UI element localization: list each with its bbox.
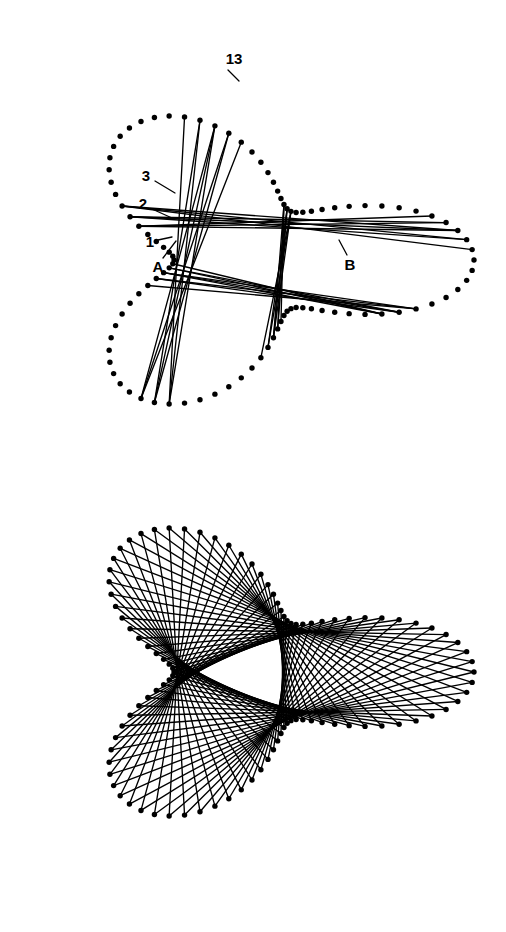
curve-point-dot (265, 582, 270, 587)
curve-point-dot (167, 677, 172, 682)
curve-point-dot (136, 703, 141, 708)
curve-point-dot (429, 625, 434, 630)
curve-point-dot (396, 617, 401, 622)
curve-point-dot (197, 809, 202, 814)
curve-point-dot (113, 192, 118, 197)
curve-point-dot (300, 622, 305, 627)
figure-canvas: 13321AB (0, 0, 506, 932)
curve-point-dot (182, 812, 187, 817)
annotation-label-3: 3 (142, 167, 150, 184)
curve-point-dot (106, 348, 111, 353)
curve-point-dot (346, 616, 351, 621)
curve-point-dot (138, 531, 143, 536)
curve-point-dot (127, 125, 132, 130)
curve-point-dot (396, 310, 401, 315)
curve-point-dot (258, 160, 263, 165)
curve-point-dot (197, 530, 202, 535)
curve-point-dot (319, 207, 324, 212)
curve-point-dot (111, 144, 116, 149)
curve-point-dot (464, 237, 469, 242)
curve-point-dot (332, 205, 337, 210)
curve-point-dot (346, 204, 351, 209)
curve-point-dot (113, 604, 118, 609)
curve-point-dot (469, 268, 474, 273)
curve-point-dot (413, 208, 418, 213)
curve-point-dot (239, 551, 244, 556)
curve-point-dot (107, 772, 112, 777)
curve-point-dot (413, 306, 418, 311)
epitrochoid-string-art-figure: 13321AB (0, 0, 506, 932)
curve-point-dot (161, 245, 166, 250)
curve-point-dot (182, 526, 187, 531)
curve-point-dot (275, 188, 280, 193)
curve-point-dot (464, 690, 469, 695)
curve-point-dot (212, 391, 217, 396)
curve-point-dot (154, 688, 159, 693)
curve-point-dot (107, 155, 112, 160)
curve-point-dot (258, 572, 263, 577)
curve-point-dot (226, 131, 231, 136)
curve-point-dot (170, 666, 175, 671)
curve-point-dot (119, 311, 124, 316)
curve-point-dot (413, 620, 418, 625)
annotation-label-2: 2 (139, 195, 147, 212)
curve-point-dot (166, 401, 171, 406)
curve-point-dot (127, 801, 132, 806)
curve-point-dot (379, 723, 384, 728)
curve-point-dot (464, 278, 469, 283)
curve-point-dot (278, 608, 283, 613)
curve-point-dot (275, 326, 280, 331)
curve-point-dot (278, 319, 283, 324)
curve-point-dot (396, 722, 401, 727)
curve-point-dot (332, 310, 337, 315)
curve-point-dot (429, 713, 434, 718)
curve-point-dot (127, 214, 132, 219)
curve-point-dot (145, 695, 150, 700)
curve-point-dot (471, 257, 476, 262)
curve-point-dot (113, 323, 118, 328)
curve-point-dot (443, 707, 448, 712)
curve-point-dot (281, 313, 286, 318)
curve-point-dot (469, 247, 474, 252)
curve-point-dot (469, 659, 474, 664)
curve-point-dot (288, 209, 293, 214)
curve-point-dot (455, 287, 460, 292)
curve-point-dot (111, 556, 116, 561)
curve-point-dot (309, 621, 314, 626)
curve-point-dot (167, 661, 172, 666)
curve-point-dot (226, 796, 231, 801)
curve-point-dot (127, 626, 132, 631)
curve-point-dot (362, 203, 367, 208)
curve-point-dot (293, 717, 298, 722)
curve-point-dot (161, 657, 166, 662)
curve-point-dot (278, 196, 283, 201)
curve-point-dot (265, 345, 270, 350)
curve-point-dot (197, 397, 202, 402)
curve-point-dot (107, 360, 112, 365)
curve-point-dot (443, 220, 448, 225)
curve-point-dot (136, 291, 141, 296)
curve-point-dot (127, 537, 132, 542)
curve-point-dot (127, 301, 132, 306)
curve-point-dot (300, 210, 305, 215)
curve-point-dot (275, 600, 280, 605)
curve-point-dot (293, 622, 298, 627)
curve-point-dot (138, 396, 143, 401)
curve-point-dot (117, 546, 122, 551)
curve-point-dot (136, 636, 141, 641)
curve-point-dot (145, 283, 150, 288)
curve-point-dot (319, 619, 324, 624)
curve-point-dot (258, 355, 263, 360)
curve-point-dot (265, 170, 270, 175)
curve-point-dot (127, 713, 132, 718)
curve-point-dot (309, 306, 314, 311)
curve-point-dot (108, 591, 113, 596)
annotation-label-A: A (153, 258, 164, 275)
curve-point-dot (271, 592, 276, 597)
curve-point-dot (300, 717, 305, 722)
curve-point-dot (117, 134, 122, 139)
curve-point-dot (249, 561, 254, 566)
curve-point-dot (111, 371, 116, 376)
curve-point-dot (107, 567, 112, 572)
curve-point-dot (226, 543, 231, 548)
